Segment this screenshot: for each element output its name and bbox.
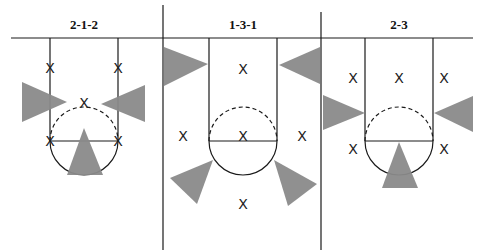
panel-2-3: 2-3 X X X X X [323, 17, 473, 188]
free-throw-circle-top [365, 107, 433, 141]
panel-title: 2-1-2 [70, 17, 98, 32]
coverage-zone [323, 95, 365, 130]
coverage-zone [170, 160, 213, 204]
defender-marker: X [439, 70, 449, 86]
defender-marker: X [297, 128, 307, 144]
defender-marker: X [113, 133, 123, 149]
defender-marker: X [238, 61, 248, 77]
defender-marker: X [238, 196, 248, 212]
coverage-zone [434, 96, 473, 132]
defender-marker: X [178, 128, 188, 144]
defender-marker: X [348, 70, 358, 86]
defender-marker: X [394, 70, 404, 86]
coverage-zone [67, 128, 103, 175]
defender-marker: X [45, 133, 55, 149]
defender-marker: X [439, 141, 449, 157]
defender-marker: X [113, 60, 123, 76]
coverage-zone [22, 82, 67, 122]
free-throw-circle-bottom [209, 141, 277, 175]
coverage-zone [274, 160, 317, 206]
panel-title: 1-3-1 [229, 17, 257, 32]
zone-defense-diagram: 2-1-2 X X X X X 1-3-1 X X X X X [0, 0, 488, 250]
panel-1-3-1: 1-3-1 X X X X X [164, 17, 320, 212]
panel-title: 2-3 [390, 17, 408, 32]
coverage-zone [279, 47, 320, 84]
coverage-zone [164, 47, 208, 86]
defender-marker: X [45, 60, 55, 76]
defender-marker: X [79, 95, 89, 111]
panel-2-1-2: 2-1-2 X X X X X [22, 17, 145, 175]
defender-marker: X [238, 128, 248, 144]
coverage-zone [382, 142, 418, 188]
defender-marker: X [348, 141, 358, 157]
